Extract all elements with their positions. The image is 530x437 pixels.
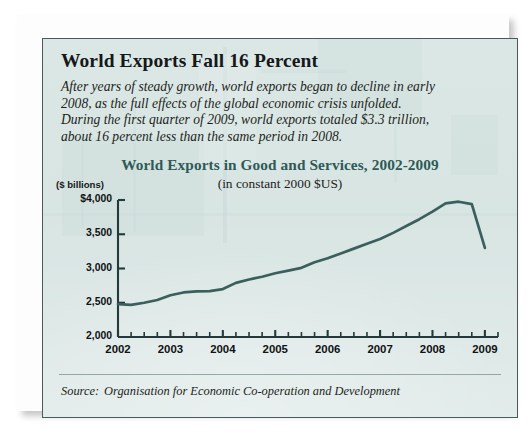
- x-axis-tick-label: 2008: [402, 343, 462, 355]
- y-axis-tick-label: 3,500: [86, 227, 112, 238]
- figure-root: World Exports Fall 16 Percent After year…: [0, 0, 530, 437]
- x-axis-tick-label: 2007: [350, 343, 410, 355]
- y-axis-tick-label: $4,000: [80, 193, 112, 204]
- page-title: World Exports Fall 16 Percent: [61, 50, 318, 72]
- x-axis-tick-label: 2003: [140, 343, 200, 355]
- deck-paragraph: After years of steady growth, world expo…: [61, 79, 495, 145]
- y-axis-tick-label: 2,000: [86, 330, 112, 341]
- deck-line: After years of steady growth, world expo…: [61, 79, 495, 96]
- source-label: Source:: [61, 384, 99, 398]
- chart-title: World Exports in Good and Services, 2002…: [43, 156, 517, 174]
- deck-line: 2008, as the full effects of the global …: [61, 96, 495, 113]
- deck-line: about 16 percent less than the same peri…: [61, 129, 495, 146]
- x-axis-tick-label: 2004: [193, 343, 253, 355]
- source-note: Source:Organisation for Economic Co-oper…: [61, 384, 400, 399]
- y-axis-tick-label: 3,000: [86, 262, 112, 273]
- y-axis-units-label: ($ billions): [56, 179, 104, 190]
- data-series-line: [118, 202, 485, 305]
- figure-panel: World Exports Fall 16 Percent After year…: [42, 38, 518, 418]
- chart-plot-area: $4,0003,5003,0002,5002,000 2002200320042…: [56, 194, 504, 359]
- source-divider: [59, 374, 501, 375]
- figure-outer-frame: World Exports Fall 16 Percent After year…: [17, 15, 509, 411]
- x-axis-tick-label: 2009: [455, 343, 515, 355]
- x-axis-tick-label: 2006: [298, 343, 358, 355]
- source-text: Organisation for Economic Co-operation a…: [104, 384, 400, 398]
- deck-line: During the first quarter of 2009, world …: [61, 112, 495, 129]
- x-axis-tick-label: 2002: [88, 343, 148, 355]
- chart-subtitle: (in constant 2000 $US): [43, 176, 517, 192]
- y-axis-tick-label: 2,500: [86, 296, 112, 307]
- x-axis-tick-label: 2005: [245, 343, 305, 355]
- chart-canvas: [56, 194, 504, 359]
